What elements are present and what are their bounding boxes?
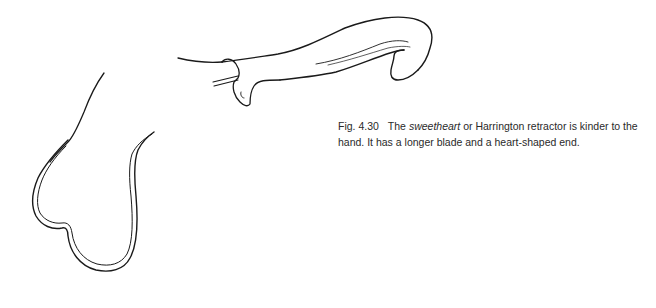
caption-text-after: or Harrington retractor is kinder to the…: [338, 120, 638, 148]
retractor-blade-lower-edge: [280, 50, 404, 80]
retractor-blade-tip: [391, 50, 418, 80]
figure-label: Fig. 4.30: [338, 120, 379, 132]
hand-finger-outline: [222, 59, 280, 106]
hand-upper-line: [178, 58, 222, 62]
retractor-illustration: [0, 0, 656, 308]
hand-knuckle-mark: [241, 92, 244, 98]
hand-left-outline: [50, 73, 104, 162]
caption-text-before: The: [388, 120, 409, 132]
caption-emphasis: sweetheart: [409, 120, 460, 132]
figure-caption: Fig. 4.30The sweetheart or Harrington re…: [338, 118, 650, 150]
heart-end-outer: [33, 132, 154, 271]
retractor-blade-highlight-2: [328, 46, 410, 65]
